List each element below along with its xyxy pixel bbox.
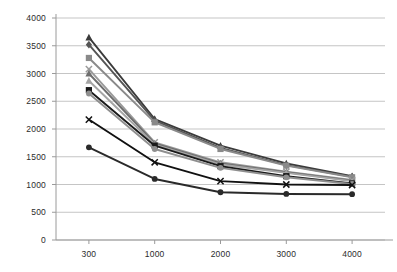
data-point-marker-square — [217, 146, 223, 152]
chart-plot-area — [0, 0, 397, 272]
y-tick-label: 2500 — [12, 97, 46, 106]
data-point-marker-circle — [152, 146, 158, 152]
y-tick-label: 0 — [12, 236, 46, 245]
data-point-marker-circle — [86, 144, 92, 150]
data-point-marker-triangle — [85, 34, 92, 41]
data-point-marker-circle — [218, 189, 224, 195]
data-point-marker-cross — [86, 116, 92, 122]
y-tick-label: 3500 — [12, 42, 46, 51]
data-series-8 — [86, 91, 355, 187]
data-point-marker-square — [283, 163, 289, 169]
line-chart: 05001000150020002500300035004000 3001000… — [0, 0, 397, 272]
y-tick-label: 500 — [12, 208, 46, 217]
y-tick-label: 2000 — [12, 125, 46, 134]
data-point-marker-triangle — [85, 77, 92, 84]
data-point-marker-square — [86, 55, 92, 61]
y-tick-label: 1500 — [12, 153, 46, 162]
data-point-marker-circle — [86, 91, 92, 97]
data-point-marker-square — [152, 119, 158, 125]
y-tick-label: 3000 — [12, 70, 46, 79]
y-tick-label: 4000 — [12, 14, 46, 23]
data-series-1 — [85, 34, 355, 180]
data-point-marker-circle — [349, 191, 355, 197]
series-line — [89, 58, 352, 177]
data-point-marker-circle — [218, 165, 224, 171]
x-tick-label: 2000 — [201, 250, 241, 259]
series-line — [89, 37, 352, 176]
data-point-marker-circle — [283, 191, 289, 197]
data-point-marker-circle — [152, 176, 158, 182]
x-tick-label: 1000 — [135, 250, 175, 259]
y-tick-label: 1000 — [12, 181, 46, 190]
x-tick-label: 3000 — [266, 250, 306, 259]
data-point-marker-circle — [283, 174, 289, 180]
x-tick-label: 300 — [69, 250, 109, 259]
x-tick-label: 4000 — [332, 250, 372, 259]
